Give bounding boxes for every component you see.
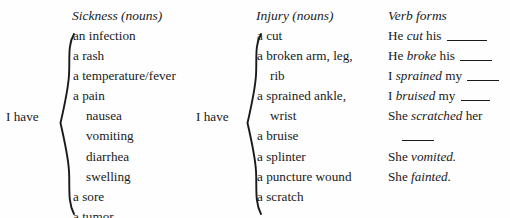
column-header-verb-forms: Verb forms xyxy=(388,9,447,23)
verb-form-line: She fainted. xyxy=(388,167,499,187)
list-item: an infection xyxy=(73,26,176,46)
list-item: a splinter xyxy=(257,147,353,167)
list-item: a bruise xyxy=(257,126,353,146)
list-item: swelling xyxy=(73,167,176,187)
verb-form-subject: I xyxy=(388,88,396,103)
verb-form-object: his xyxy=(436,48,458,63)
list-item: a cut xyxy=(257,26,353,46)
list-item: a pain xyxy=(73,86,176,106)
list-injury: a cut a broken arm, leg, rib a sprained … xyxy=(257,26,353,207)
verb-form-object: my xyxy=(442,68,465,83)
column-header-injury: Injury (nouns) xyxy=(256,9,334,23)
verb-form-line: I bruised my xyxy=(388,86,499,106)
list-item: a puncture wound xyxy=(257,167,353,187)
list-item: a tumor xyxy=(73,207,176,218)
brace-label-sickness: I have xyxy=(6,109,39,125)
verb-form-blank xyxy=(461,100,490,101)
list-item: diarrhea xyxy=(73,147,176,167)
list-item: vomiting xyxy=(73,126,176,146)
verb-form-subject: He xyxy=(388,28,407,43)
list-sickness: an infection a rash a temperature/fever … xyxy=(73,26,176,218)
verb-form-verb: sprained xyxy=(396,68,442,83)
list-item: a scratch xyxy=(257,187,353,207)
list-verb-forms: He cut his He broke his I sprained my I … xyxy=(388,26,499,187)
verb-form-verb: fainted. xyxy=(411,169,451,184)
verb-form-line: She scratched her xyxy=(388,106,499,126)
verb-form-subject: He xyxy=(388,48,407,63)
brace-label-injury: I have xyxy=(196,109,229,125)
verb-form-line: He cut his xyxy=(388,26,499,46)
verb-form-subject: She xyxy=(388,169,411,184)
verb-form-line: He broke his xyxy=(388,46,499,66)
list-item: wrist xyxy=(257,106,353,126)
column-header-sickness: Sickness (nouns) xyxy=(72,9,162,23)
list-item: a temperature/fever xyxy=(73,66,176,86)
verb-form-blank xyxy=(402,140,434,141)
verb-form-verb: broke xyxy=(407,48,437,63)
verb-form-blank xyxy=(467,80,499,81)
list-item: nausea xyxy=(73,106,176,126)
list-item: a sprained ankle, xyxy=(257,86,353,106)
verb-form-line: She vomited. xyxy=(388,147,499,167)
list-item: a sore xyxy=(73,187,176,207)
worksheet-page: Sickness (nouns) I have an infection a r… xyxy=(0,0,510,218)
verb-form-subject: She xyxy=(388,108,411,123)
verb-form-verb: cut xyxy=(407,28,423,43)
verb-form-verb: scratched xyxy=(411,108,462,123)
verb-form-subject: She xyxy=(388,149,411,164)
list-item: a rash xyxy=(73,46,176,66)
verb-form-object: my xyxy=(435,88,458,103)
list-item: a broken arm, leg, xyxy=(257,46,353,66)
verb-form-verb: vomited. xyxy=(411,149,456,164)
verb-form-subject: I xyxy=(388,68,396,83)
verb-form-line: I sprained my xyxy=(388,66,499,86)
verb-form-line-continuation xyxy=(388,126,499,146)
verb-form-object: his xyxy=(423,28,445,43)
verb-form-blank xyxy=(447,40,487,41)
verb-form-object: her xyxy=(462,108,482,123)
verb-form-verb: bruised xyxy=(396,88,436,103)
list-item: rib xyxy=(257,66,353,86)
verb-form-blank xyxy=(460,60,492,61)
